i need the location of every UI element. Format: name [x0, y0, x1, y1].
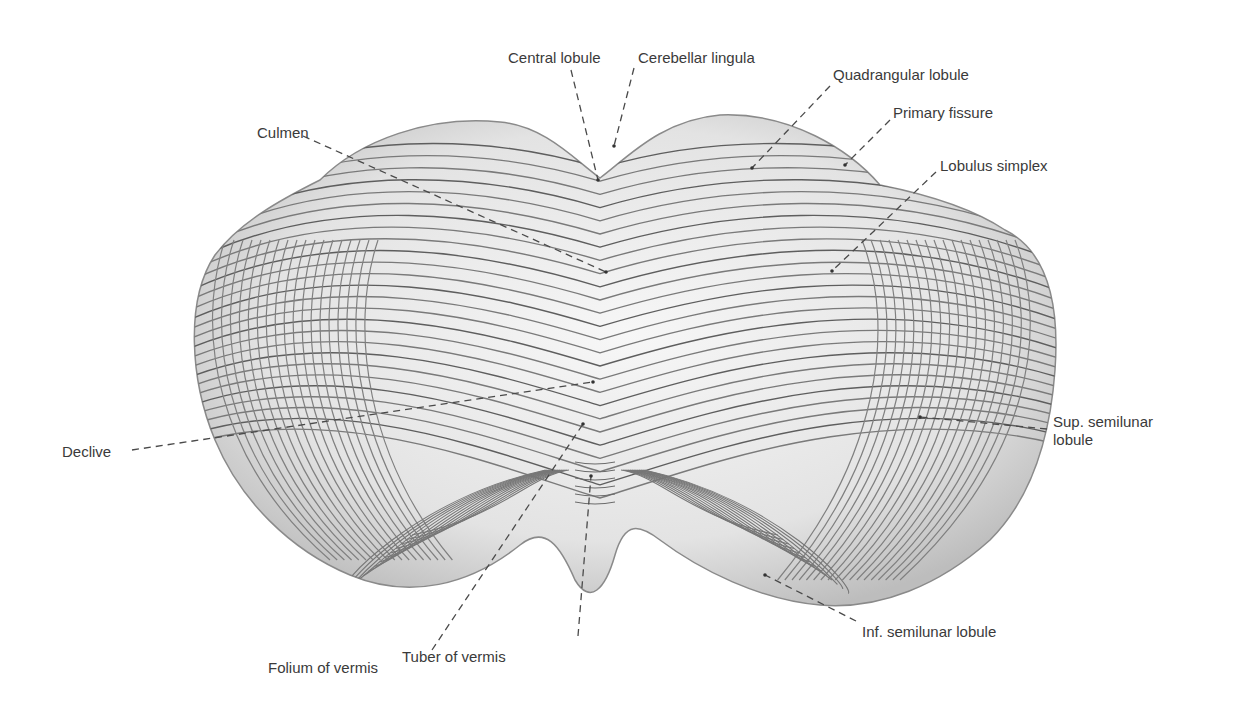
label-folium-of-vermis: Folium of vermis [268, 659, 378, 677]
label-sup-semilunar-lobule: Sup. semilunar lobule [1053, 413, 1163, 449]
leader-endpoint-tuber-of-vermis [589, 474, 593, 478]
label-central-lobule: Central lobule [508, 49, 601, 67]
label-lobulus-simplex: Lobulus simplex [940, 157, 1048, 175]
leader-endpoint-cerebellar-lingula [612, 144, 616, 148]
leader-primary-fissure [845, 120, 890, 165]
label-culmen: Culmen [257, 124, 309, 142]
label-quadrangular-lobule: Quadrangular lobule [833, 66, 969, 84]
leader-endpoint-quadrangular-lobule [750, 166, 754, 170]
cerebellum-diagram: Central lobule Cerebellar lingula Quadra… [0, 0, 1244, 717]
leader-endpoint-declive [591, 380, 595, 384]
leader-endpoint-inf-semilunar-lobule [763, 573, 767, 577]
label-primary-fissure: Primary fissure [893, 104, 993, 122]
leader-endpoint-culmen [604, 270, 608, 274]
leader-endpoint-folium-of-vermis [581, 422, 585, 426]
label-declive: Declive [62, 443, 111, 461]
label-inf-semilunar-lobule: Inf. semilunar lobule [862, 623, 996, 641]
cerebellum-illustration [0, 0, 1244, 717]
leader-cerebellar-lingula [614, 68, 634, 146]
label-tuber-of-vermis: Tuber of vermis [402, 648, 506, 666]
leader-endpoint-central-lobule [596, 178, 600, 182]
leader-endpoint-sup-semilunar-lobule [918, 415, 922, 419]
leader-endpoint-lobulus-simplex [830, 269, 834, 273]
label-cerebellar-lingula: Cerebellar lingula [638, 49, 755, 67]
leader-endpoint-primary-fissure [843, 163, 847, 167]
